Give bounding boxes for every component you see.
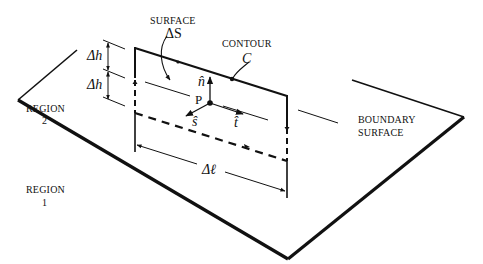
surface-title-label: SURFACE [150, 15, 196, 26]
plane-front-right-edge [288, 117, 464, 259]
delta-h-dimension [103, 40, 125, 106]
plane-back-left-edge [18, 50, 77, 100]
contour-top-edge [135, 48, 287, 96]
delta-h-lower-label: Δh [86, 77, 102, 92]
delta-h-upper-label: Δh [86, 48, 102, 63]
region1-label-line1: REGION [26, 184, 65, 195]
region2-label-line1: REGION [26, 103, 65, 114]
delta-l-label: Δℓ [201, 162, 216, 177]
n-hat-label: n̂ [198, 74, 205, 89]
boundary-label-line1: BOUNDARY [358, 114, 416, 125]
plane-back-right-edge [352, 80, 464, 117]
contour-bottom-dashed [135, 113, 287, 161]
s-hat-label: ŝ [192, 114, 198, 129]
boundary-label-line2: SURFACE [358, 127, 404, 138]
boundary-contour-diagram: SURFACE ΔS CONTOUR C Δh Δh P n̂ ŝ t̂ Δℓ … [0, 0, 483, 264]
region2-label-line2: 2 [42, 115, 47, 126]
point-p-label: P [195, 92, 202, 107]
surface-symbol-label: ΔS [165, 26, 182, 41]
t-hat-arrow [210, 103, 243, 114]
region1-label-line2: 1 [42, 197, 47, 208]
t-hat-label: t̂ [234, 115, 239, 130]
contour-title-label: CONTOUR [222, 38, 272, 49]
contour-symbol-label: C [242, 51, 252, 66]
